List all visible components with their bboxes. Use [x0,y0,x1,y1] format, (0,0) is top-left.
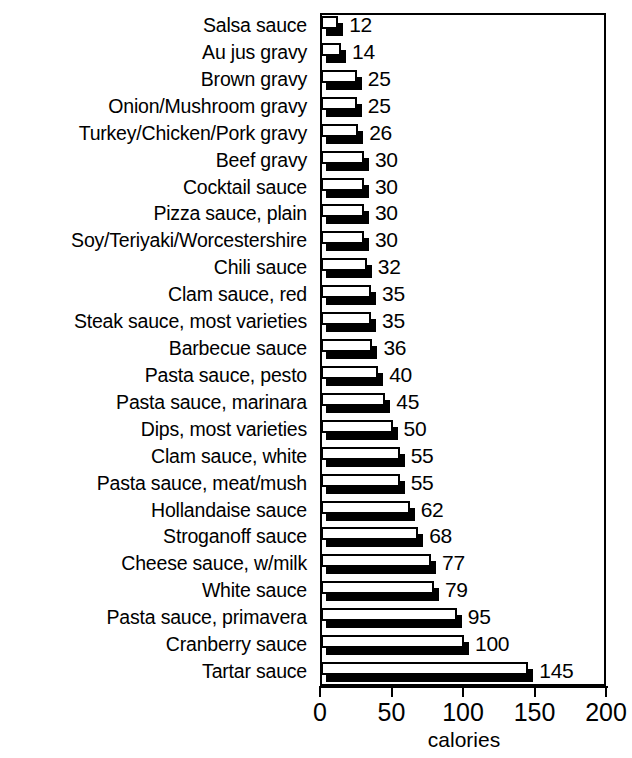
category-label: Turkey/Chicken/Pork gravy [79,121,307,146]
x-tick-label: 0 [313,698,327,726]
bar-face [321,258,367,271]
bar [321,70,363,91]
bar-row: Soy/Teriyaki/Worcestershire30 [0,228,632,255]
bar [321,447,406,468]
x-tick [391,686,393,697]
bar-value-label: 35 [382,281,405,306]
bar-row: Barbecue sauce36 [0,336,632,363]
bar-value-label: 95 [468,604,491,629]
bar-row: Hollandaise sauce62 [0,498,632,525]
bar-face [321,151,364,164]
bar-face [321,635,464,648]
bar-row: Pasta sauce, marinara45 [0,390,632,417]
bar [321,339,378,360]
bar-value-label: 25 [368,93,391,118]
bar-value-label: 14 [352,39,375,64]
category-label: Chili sauce [214,255,307,280]
bar [321,366,384,387]
bar-value-label: 55 [411,443,434,468]
bar-value-label: 62 [421,497,444,522]
bar-face [321,16,338,29]
category-label: Steak sauce, most varieties [74,309,307,334]
category-label: Au jus gravy [202,40,307,65]
bar-value-label: 68 [429,523,452,548]
bar-face [321,527,418,540]
bar-value-label: 36 [383,335,406,360]
chart-title [330,0,600,2]
category-label: Stroganoff sauce [163,524,307,549]
bar-face [321,474,400,487]
bar-face [321,178,364,191]
category-label: Clam sauce, red [168,282,307,307]
category-label: Cheese sauce, w/milk [121,551,307,576]
x-tick-label: 150 [514,698,556,726]
bar [321,204,370,225]
bar-row: Pasta sauce, primavera95 [0,605,632,632]
bar-row: Cranberry sauce100 [0,632,632,659]
x-tick-label: 200 [585,698,627,726]
category-label: Pasta sauce, meat/mush [97,471,307,496]
bar-value-label: 77 [442,550,465,575]
x-tick-label: 50 [378,698,406,726]
bar-face [321,608,457,621]
category-label: Beef gravy [216,148,307,173]
bar-face [321,70,357,83]
bar-value-label: 32 [378,254,401,279]
bar [321,420,399,441]
bar [321,662,534,683]
bar-face [321,312,371,325]
bar [321,393,391,414]
category-label: Pasta sauce, marinara [116,390,307,415]
bar-face [321,97,357,110]
bar-row: Steak sauce, most varieties35 [0,309,632,336]
bar-row: Onion/Mushroom gravy25 [0,94,632,121]
bar-rows: Salsa sauce12Au jus gravy14Brown gravy25… [0,13,632,686]
bar-row: Dips, most varieties50 [0,417,632,444]
bar-face [321,554,431,567]
category-label: Soy/Teriyaki/Worcestershire [71,228,307,253]
bar-face [321,339,372,352]
bar-value-label: 145 [539,658,573,683]
bar-face [321,581,434,594]
bar-value-label: 30 [375,200,398,225]
category-label: Pasta sauce, pesto [145,363,307,388]
bar-row: Clam sauce, white55 [0,444,632,471]
bar-chart: Salsa sauce12Au jus gravy14Brown gravy25… [0,0,632,758]
bar-face [321,43,341,56]
bar [321,527,424,548]
bar-face [321,285,371,298]
category-label: Dips, most varieties [141,417,307,442]
bar [321,501,416,522]
category-label: Onion/Mushroom gravy [108,94,307,119]
bar-value-label: 12 [349,12,372,37]
x-tick [462,686,464,697]
bar-value-label: 26 [369,120,392,145]
bar-value-label: 30 [375,227,398,252]
category-label: Pasta sauce, primavera [107,605,307,630]
bar [321,581,440,602]
bar [321,474,406,495]
bar-row: Pasta sauce, pesto40 [0,363,632,390]
bar-face [321,124,358,137]
bar-value-label: 45 [396,389,419,414]
bar-value-label: 30 [375,174,398,199]
bar-row: Cocktail sauce30 [0,175,632,202]
bar [321,608,463,629]
bar-value-label: 30 [375,147,398,172]
bar-value-label: 55 [411,470,434,495]
bar-row: Pizza sauce, plain30 [0,201,632,228]
bar-row: Tartar sauce145 [0,659,632,686]
bar-row: Cheese sauce, w/milk77 [0,551,632,578]
bar [321,554,437,575]
x-tick [605,686,607,697]
bar-row: Salsa sauce12 [0,13,632,40]
x-tick [319,686,321,697]
bar-row: White sauce79 [0,578,632,605]
bar-value-label: 100 [475,631,509,656]
x-tick-label: 100 [442,698,484,726]
bar [321,312,377,333]
bar-value-label: 50 [404,416,427,441]
category-label: Salsa sauce [203,13,307,38]
category-label: Barbecue sauce [169,336,307,361]
bar [321,178,370,199]
